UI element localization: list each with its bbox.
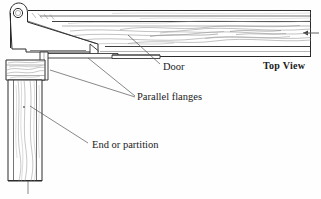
label-top-view: Top View: [263, 61, 305, 71]
label-parallel-flanges: Parallel flanges: [137, 92, 202, 103]
upper-parallel-flange: [44, 54, 118, 59]
end-or-partition-post: [6, 60, 45, 194]
label-end-or-partition: End or partition: [92, 140, 159, 151]
pivot-screw-hole-icon: [13, 8, 22, 17]
lower-parallel-flange: [112, 55, 160, 59]
label-door: Door: [163, 62, 185, 73]
